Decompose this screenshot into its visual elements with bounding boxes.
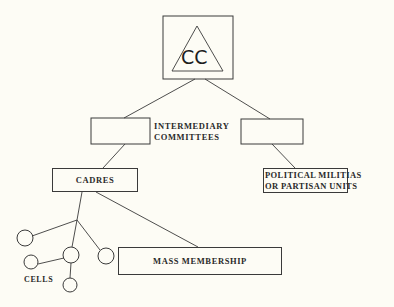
mass-membership-box: MASS MEMBERSHIP (118, 247, 282, 275)
intermediary-committee-box-right (241, 119, 303, 144)
edge-cell-center-to-cell-lower-left (38, 258, 64, 264)
cells-label: CELLS (24, 274, 53, 285)
edge-intermediary-left-to-cadres (103, 144, 125, 168)
edge-intermediary-right-to-militias (272, 144, 295, 168)
edge-junction-to-cell-center (72, 220, 77, 247)
mass-membership-label: MASS MEMBERSHIP (153, 256, 247, 266)
cell-circle-bottom (63, 278, 77, 292)
intermediary-committees-label: INTERMEDIARY COMMITTEES (154, 121, 229, 143)
intermediary-label-line1: INTERMEDIARY (154, 121, 229, 132)
cadres-label: CADRES (76, 175, 115, 185)
militias-label-line1: POLITICAL MILITIAS (265, 170, 362, 181)
political-militias-label: POLITICAL MILITIAS OR PARTISAN UNITS (265, 170, 362, 192)
cell-circle-lower-left (24, 255, 38, 269)
cadres-box: CADRES (52, 168, 138, 192)
cell-circle-left (17, 230, 33, 246)
cc-label: CC (181, 46, 208, 68)
edge-cadres-to-junction (77, 192, 82, 220)
intermediary-label-line2: COMMITTEES (154, 132, 229, 143)
cell-circle-right (98, 248, 114, 264)
edge-cell-center-to-cell-bottom (70, 263, 71, 278)
cell-circle-center (63, 247, 79, 263)
militias-label-line2: OR PARTISAN UNITS (265, 181, 362, 192)
edge-junction-to-cell-left (32, 220, 77, 236)
edge-cc-to-intermediary-right (205, 79, 270, 119)
edge-cadres-to-mass-membership (96, 192, 198, 247)
edge-junction-to-cell-right (77, 220, 100, 250)
intermediary-committee-box-left (91, 118, 150, 144)
edge-cc-to-intermediary-left (124, 79, 195, 118)
